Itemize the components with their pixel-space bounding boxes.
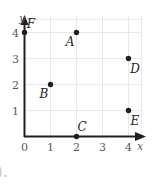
y-axis-label: y [19, 13, 25, 24]
point-label-e: E [131, 115, 140, 127]
point-marker-b [48, 82, 53, 87]
cropped-text-artifact: ). [0, 163, 8, 180]
x-tick-label-3: 3 [99, 142, 106, 153]
y-tick-label-3: 3 [12, 53, 19, 64]
point-marker-c [74, 134, 79, 139]
y-tick-label-2: 2 [12, 79, 19, 90]
x-tick-label-2: 2 [73, 142, 80, 153]
data-point-markers [0, 0, 153, 186]
y-tick-label-4: 4 [12, 27, 19, 38]
point-label-f: F [27, 18, 35, 30]
x-tick-label-0: 0 [21, 142, 28, 153]
point-label-a: A [66, 36, 75, 48]
point-label-c: C [77, 121, 86, 133]
x-tick-label-1: 1 [47, 142, 54, 153]
y-tick-label-1: 1 [12, 105, 19, 116]
coordinate-plane-figure: 0 1 2 3 4 4 3 2 1 y x A B C D E F ). [0, 0, 153, 186]
point-marker-e [126, 108, 131, 113]
point-label-b: B [40, 88, 49, 100]
x-tick-label-4: 4 [125, 142, 132, 153]
x-axis-label: x [137, 141, 143, 152]
plot-area: 0 1 2 3 4 4 3 2 1 y x A B C D E F [0, 0, 153, 160]
point-label-d: D [130, 63, 140, 75]
point-marker-d [126, 56, 131, 61]
